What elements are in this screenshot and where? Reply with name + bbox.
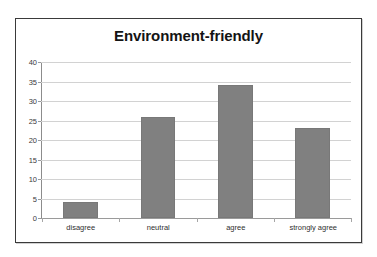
y-tick-mark-25	[38, 121, 41, 122]
category-tick-2	[197, 218, 198, 222]
category-tick-3	[274, 218, 275, 222]
scan-edge	[0, 250, 377, 257]
bar-slot-disagree	[42, 62, 119, 218]
category-tick-marks	[42, 218, 351, 222]
x-axis-label-agree: agree	[197, 223, 275, 232]
y-tick-mark-5	[38, 199, 41, 200]
y-axis-label-15: 15	[29, 155, 37, 164]
y-tick-mark-30	[38, 101, 41, 102]
y-tick-mark-15	[38, 160, 41, 161]
bars-layer	[42, 62, 351, 218]
y-tick-mark-20	[38, 140, 41, 141]
category-tick-0	[42, 218, 43, 222]
y-axis-label-30: 30	[29, 97, 37, 106]
bar-slot-agree	[197, 62, 274, 218]
y-axis-label-25: 25	[29, 116, 37, 125]
bar-strongly-agree[interactable]	[295, 128, 330, 218]
y-tick-mark-40	[38, 62, 41, 63]
y-axis-label-10: 10	[29, 175, 37, 184]
chart-frame: Environment-friendly 40 35 30 25 20 15 1…	[15, 18, 362, 243]
x-axis-label-strongly-agree: strongly agree	[275, 223, 353, 232]
y-axis-label-40: 40	[29, 58, 37, 67]
y-axis-label-35: 35	[29, 77, 37, 86]
category-tick-1	[119, 218, 120, 222]
y-tick-mark-0	[38, 218, 41, 219]
y-tick-mark-10	[38, 179, 41, 180]
y-axis-label-20: 20	[29, 136, 37, 145]
bar-slot-strongly-agree	[274, 62, 351, 218]
category-tick-4	[351, 218, 352, 222]
bar-disagree[interactable]	[63, 202, 98, 218]
x-axis-label-neutral: neutral	[120, 223, 198, 232]
bar-neutral[interactable]	[141, 117, 176, 218]
chart-title: Environment-friendly	[16, 27, 361, 44]
bar-agree[interactable]	[218, 85, 253, 218]
x-axis-labels: disagree neutral agree strongly agree	[42, 223, 352, 232]
y-axis-label-0: 0	[33, 214, 37, 223]
bar-slot-neutral	[119, 62, 196, 218]
y-axis-label-5: 5	[33, 194, 37, 203]
x-axis-label-disagree: disagree	[42, 223, 120, 232]
plot-area: 40 35 30 25 20 15 10 5 0	[41, 62, 351, 218]
y-tick-mark-35	[38, 82, 41, 83]
